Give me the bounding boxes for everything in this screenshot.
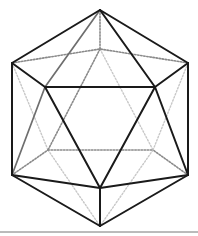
- edge-BLL-B: [48, 150, 100, 226]
- edge-T-FL: [45, 10, 100, 87]
- edge-T-UR: [100, 10, 188, 63]
- edge-LL-B: [12, 175, 100, 226]
- hidden-edges: [12, 10, 188, 175]
- edge-LR-B: [100, 175, 188, 226]
- edge-BT-BLL: [48, 49, 100, 150]
- edge-BLR-B: [100, 150, 153, 226]
- edge-T-FR: [100, 10, 155, 87]
- icosahedron-diagram: [0, 0, 198, 236]
- edge-BT-BLR: [100, 49, 153, 150]
- edge-T-UL: [12, 10, 100, 63]
